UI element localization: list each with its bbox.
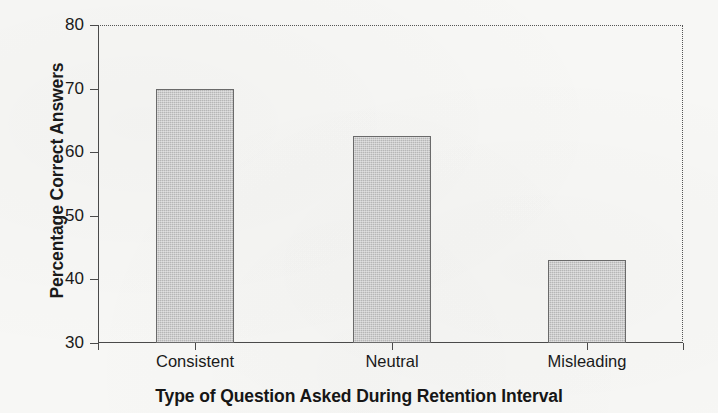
x-category-label-misleading: Misleading <box>548 352 627 371</box>
x-category-label-neutral: Neutral <box>365 352 418 371</box>
y-tick-label: 50 <box>65 206 84 226</box>
x-tick-misleading <box>587 343 588 350</box>
plot-top-border <box>98 25 683 26</box>
x-tick-edge-0 <box>98 343 99 350</box>
bar-consistent <box>156 89 234 343</box>
x-tick-consistent <box>195 343 196 350</box>
plot-right-border <box>682 25 683 343</box>
y-tick-70: 70 <box>90 89 98 90</box>
y-tick-60: 60 <box>90 152 98 153</box>
y-tick-80: 80 <box>90 25 98 26</box>
y-tick-label: 30 <box>65 333 84 353</box>
plot-area: 807060504030 <box>98 25 683 343</box>
y-tick-label: 40 <box>65 269 84 289</box>
y-tick-label: 60 <box>65 142 84 162</box>
x-tick-edge-1 <box>683 343 684 350</box>
y-axis-line <box>98 25 99 343</box>
y-tick-50: 50 <box>90 216 98 217</box>
x-category-label-consistent: Consistent <box>156 352 234 371</box>
y-axis-title: Percentage Correct Answers <box>47 21 68 341</box>
y-tick-40: 40 <box>90 279 98 280</box>
bar-misleading <box>548 260 626 343</box>
bar-chart-figure: Percentage Correct Answers 807060504030 … <box>0 0 718 413</box>
y-tick-30: 30 <box>90 343 98 344</box>
bar-neutral <box>353 136 431 343</box>
y-tick-label: 70 <box>65 79 84 99</box>
x-axis-title: Type of Question Asked During Retention … <box>0 386 718 407</box>
y-tick-label: 80 <box>65 15 84 35</box>
x-tick-neutral <box>392 343 393 350</box>
